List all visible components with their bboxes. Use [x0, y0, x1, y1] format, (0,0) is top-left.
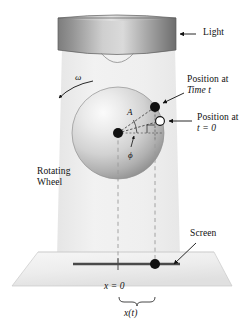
- marker-position-t0: [156, 117, 165, 126]
- label-position-t0: Position at t = 0: [197, 112, 238, 133]
- label-rotating-wheel-line2: Wheel: [37, 177, 62, 187]
- label-position-time-t: Position at Time t: [187, 74, 228, 95]
- label-position-time-t-line1: Position at: [187, 74, 228, 84]
- label-position-t0-line2: t = 0: [197, 123, 216, 133]
- label-rotating-wheel-line1: Rotating: [37, 166, 71, 176]
- label-position-t0-line1: Position at: [197, 112, 238, 122]
- label-position-time-t-line2: Time t: [187, 85, 211, 95]
- marker-position-time-t: [150, 102, 160, 112]
- label-x-of-t: x(t): [124, 308, 138, 319]
- marker-screen-projection: [150, 259, 160, 269]
- label-screen: Screen: [190, 228, 216, 239]
- label-x-zero: x = 0: [104, 281, 125, 292]
- label-amplitude-a: A: [127, 107, 133, 117]
- label-light: Light: [203, 27, 224, 38]
- x-of-t-brace: [119, 297, 155, 306]
- physics-diagram-rotating-wheel: Light Position at Time t Position at t =…: [0, 0, 252, 325]
- label-phi: ϕ: [128, 150, 133, 160]
- marker-wheel-center: [113, 128, 123, 138]
- diagram-canvas: [0, 0, 252, 325]
- label-omega: ω: [75, 72, 81, 82]
- label-rotating-wheel: Rotating Wheel: [37, 166, 71, 187]
